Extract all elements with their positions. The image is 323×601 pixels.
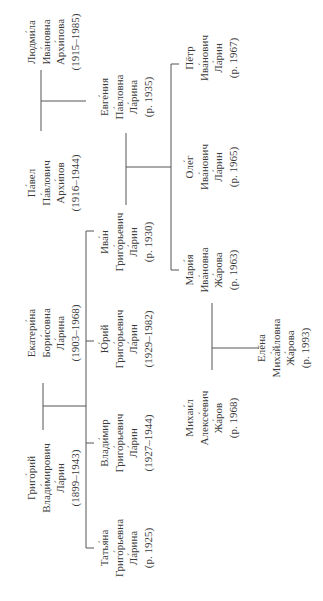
surname: Жа́рова — [211, 247, 226, 292]
person-ekaterina: Екатери́на Бори́совна Ла́рина (1903–1968… — [24, 305, 82, 362]
patronymic: Бори́совна — [39, 305, 54, 362]
surname: Ла́рина — [126, 75, 141, 120]
life-dates: (1916–1944) — [68, 155, 83, 212]
life-dates: (1915–1985) — [68, 14, 83, 71]
life-dates: (р. 1930) — [141, 213, 156, 272]
life-dates: (р. 1935) — [141, 75, 156, 120]
life-dates: (1899–1943) — [68, 443, 83, 513]
surname: Ла́рин — [126, 310, 141, 369]
patronymic: Григо́рьевич — [112, 310, 127, 369]
patronymic: Алексе́евич — [197, 391, 212, 446]
patronymic: Ива́новна — [39, 14, 54, 71]
life-dates: (1929–1982) — [141, 310, 156, 369]
person-evgenia: Евге́ния Па́вловна Ла́рина (р. 1935) — [97, 75, 155, 120]
surname: Ла́рина — [126, 519, 141, 577]
given-name: Михаи́л — [182, 391, 197, 446]
patronymic: Григо́рьевна — [112, 519, 127, 577]
life-dates: (р. 1925) — [141, 519, 156, 577]
patronymic: Ива́новна — [197, 247, 212, 292]
person-maria: Мари́я Ива́новна Жа́рова (р. 1963) — [182, 247, 240, 292]
patronymic: Григо́рьевич — [112, 213, 127, 272]
surname: Ла́рина — [53, 305, 68, 362]
patronymic: Миха́йловна — [269, 319, 284, 378]
life-dates: (1927–1944) — [141, 414, 156, 473]
given-name: Людми́ла — [24, 14, 39, 71]
given-name: Григо́рий — [24, 443, 39, 513]
person-ivan: Ива́н Григо́рьевич Ла́рин (р. 1930) — [97, 213, 155, 272]
given-name: Татья́на — [97, 519, 112, 577]
given-name: Евге́ния — [97, 75, 112, 120]
life-dates: (р. 1993) — [298, 319, 313, 378]
given-name: Оле́г — [182, 144, 197, 190]
given-name: Пётр — [182, 35, 197, 81]
patronymic: Па́влович — [39, 155, 54, 212]
surname: Ла́рин — [53, 443, 68, 513]
surname: Ла́рин — [211, 35, 226, 81]
life-dates: (1903–1968) — [68, 305, 83, 362]
life-dates: (р. 1968) — [226, 391, 241, 446]
person-yuri: Ю́рий Григо́рьевич Ла́рин (1929–1982) — [97, 310, 155, 369]
patronymic: Па́вловна — [112, 75, 127, 120]
given-name: Влади́мир — [97, 414, 112, 473]
given-name: Ю́рий — [97, 310, 112, 369]
given-name: Елёна — [254, 319, 269, 378]
surname: Ла́рин — [126, 414, 141, 473]
given-name: Па́вел — [24, 155, 39, 212]
person-mikhail: Михаи́л Алексе́евич Жа́ров (р. 1968) — [182, 391, 240, 446]
person-pavel: Па́вел Па́влович Архи́пов (1916–1944) — [24, 155, 82, 212]
life-dates: (р. 1965) — [226, 144, 241, 190]
surname: Ла́рин — [126, 213, 141, 272]
surname: Жа́рова — [283, 319, 298, 378]
person-oleg: Оле́г Ива́нович Ла́рин (р. 1965) — [182, 144, 240, 190]
life-dates: (р. 1963) — [226, 247, 241, 292]
person-lyudmila: Людми́ла Ива́новна Архи́пова (1915–1985) — [24, 14, 82, 71]
patronymic: Ива́нович — [197, 144, 212, 190]
given-name: Мари́я — [182, 247, 197, 292]
surname: Архи́пов — [53, 155, 68, 212]
surname: Жа́ров — [211, 391, 226, 446]
surname: Ла́рин — [211, 144, 226, 190]
life-dates: (р. 1967) — [226, 35, 241, 81]
given-name: Ива́н — [97, 213, 112, 272]
person-tatyana: Татья́на Григо́рьевна Ла́рина (р. 1925) — [97, 519, 155, 577]
person-elena: Елёна Миха́йловна Жа́рова (р. 1993) — [254, 319, 312, 378]
person-pyotr: Пётр Ива́нович Ла́рин (р. 1967) — [182, 35, 240, 81]
person-vladimir: Влади́мир Григо́рьевич Ла́рин (1927–1944… — [97, 414, 155, 473]
surname: Архи́пова — [53, 14, 68, 71]
person-grigory: Григо́рий Влади́мирович Ла́рин (1899–194… — [24, 443, 82, 513]
patronymic: Влади́мирович — [39, 443, 54, 513]
patronymic: Григо́рьевич — [112, 414, 127, 473]
given-name: Екатери́на — [24, 305, 39, 362]
patronymic: Ива́нович — [197, 35, 212, 81]
